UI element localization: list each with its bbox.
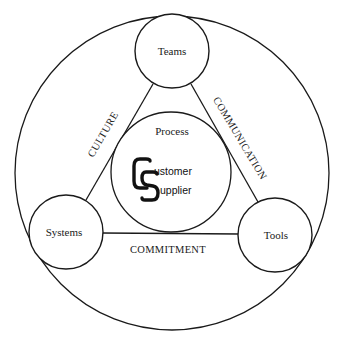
process-label: Process (155, 125, 189, 137)
logo-supplier-text: upplier (160, 184, 192, 196)
node-systems-label: Systems (46, 226, 83, 238)
customer-supplier-diagram: Teams Systems Tools CULTURE COMMUNICATIO… (0, 0, 341, 342)
logo-customer-text: ustomer (154, 165, 192, 177)
edge-commitment-line (102, 233, 239, 234)
node-teams-label: Teams (158, 45, 187, 57)
node-tools-label: Tools (264, 229, 288, 241)
edge-commitment-label: COMMITMENT (130, 244, 206, 255)
